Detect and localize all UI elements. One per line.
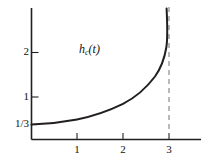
curve-label-argument: (t)	[89, 42, 100, 56]
curve-hc	[32, 9, 168, 125]
curve-label-subscript: c	[85, 48, 89, 57]
x-tick-label-3: 3	[159, 144, 179, 155]
y-tick-label-1: 1	[2, 91, 29, 102]
figure-container: 2 1 1/3 1 2 3 hc(t)	[0, 0, 216, 163]
y-tick-label-one-third: 1/3	[0, 118, 29, 129]
curve-function-label: hc(t)	[79, 43, 100, 55]
y-tick-label-2: 2	[2, 46, 29, 57]
x-tick-label-1: 1	[67, 144, 87, 155]
x-tick-label-2: 2	[113, 144, 133, 155]
plot-canvas	[0, 0, 216, 163]
